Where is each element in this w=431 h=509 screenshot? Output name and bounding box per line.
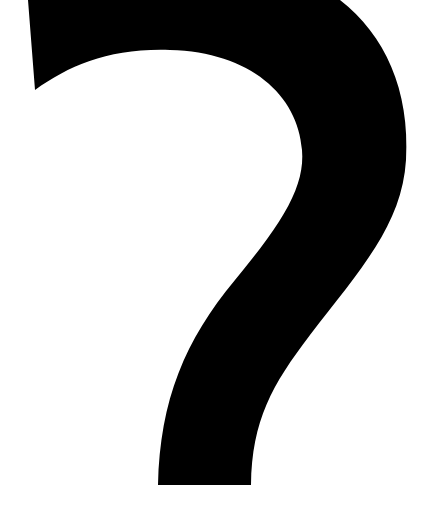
canvas: ? [0,0,431,509]
question-mark-shape [28,0,406,485]
question-mark-icon [0,0,431,509]
